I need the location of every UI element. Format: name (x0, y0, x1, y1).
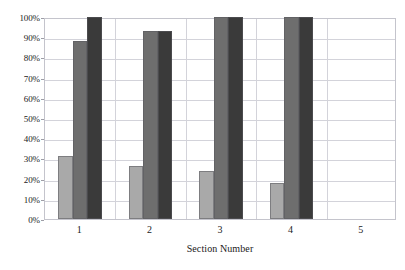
y-axis-tick-mark (41, 159, 44, 160)
y-axis-tick-mark (41, 79, 44, 80)
y-axis-tick-label: 40% (0, 135, 40, 144)
x-axis-tick-label: 4 (255, 224, 325, 236)
y-axis-tick-label: 50% (0, 115, 40, 124)
plot-area (44, 18, 396, 220)
gridline-vertical (115, 19, 116, 219)
bar[interactable] (284, 17, 299, 219)
gridline-vertical (186, 19, 187, 219)
bar[interactable] (87, 17, 102, 219)
bar[interactable] (199, 171, 214, 219)
y-axis-tick-label: 70% (0, 74, 40, 83)
y-axis-tick-mark (41, 220, 44, 221)
x-axis-tick-label: 3 (185, 224, 255, 236)
x-axis-tick-label: 5 (326, 224, 396, 236)
y-axis-tick-label: 90% (0, 34, 40, 43)
x-axis: 12345 (44, 224, 396, 238)
bar-chart: 100%90%80%70%60%50%40%30%20%10%0% 12345 … (0, 0, 405, 270)
chart-title (0, 0, 405, 3)
bar[interactable] (129, 166, 144, 219)
y-axis-tick-label: 100% (0, 14, 40, 23)
y-axis-tick-label: 10% (0, 195, 40, 204)
y-axis-tick-label: 0% (0, 216, 40, 225)
bar[interactable] (73, 41, 88, 219)
bar[interactable] (143, 31, 158, 219)
bar-group (199, 19, 243, 219)
bar[interactable] (214, 17, 229, 219)
x-axis-tick-label: 1 (44, 224, 114, 236)
y-axis-tick-mark (41, 38, 44, 39)
y-axis-tick-label: 20% (0, 175, 40, 184)
x-axis-tick-label: 2 (114, 224, 184, 236)
bar[interactable] (228, 17, 243, 219)
bar[interactable] (58, 156, 73, 219)
y-axis-tick-mark (41, 119, 44, 120)
y-axis-tick-label: 30% (0, 155, 40, 164)
bar[interactable] (299, 17, 314, 219)
bar-group (58, 19, 102, 219)
y-axis-tick-mark (41, 58, 44, 59)
y-axis-tick-mark (41, 139, 44, 140)
gridline-vertical (327, 19, 328, 219)
y-axis-tick-mark (41, 180, 44, 181)
y-axis-tick-label: 60% (0, 94, 40, 103)
y-axis: 100%90%80%70%60%50%40%30%20%10%0% (0, 18, 40, 220)
bar[interactable] (158, 31, 173, 219)
y-axis-tick-mark (41, 200, 44, 201)
bar[interactable] (270, 183, 285, 219)
y-axis-tick-mark (41, 99, 44, 100)
bar-group (340, 19, 384, 219)
y-axis-tick-mark (41, 18, 44, 19)
bar-group (129, 19, 173, 219)
gridline-vertical (256, 19, 257, 219)
x-axis-title: Section Number (44, 243, 396, 254)
y-axis-tick-label: 80% (0, 54, 40, 63)
bar-group (270, 19, 314, 219)
